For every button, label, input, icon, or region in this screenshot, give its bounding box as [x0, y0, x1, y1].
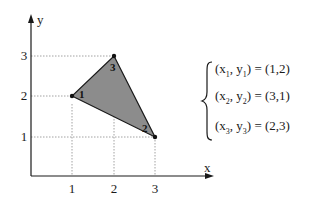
vertex-point-2 [153, 135, 157, 139]
y-tick-2: 2 [21, 88, 28, 103]
eq1-y-sub: 1 [243, 70, 247, 79]
vertex-point-3 [112, 54, 116, 58]
y-tick-3: 3 [21, 48, 28, 63]
curly-brace [202, 62, 212, 140]
y-axis-arrow-icon [28, 14, 34, 23]
eq3-value: (2,3) [265, 118, 290, 133]
y-axis-label: y [37, 12, 44, 27]
equation-2: (x2, y2) = (3,1) [215, 88, 290, 106]
eq3-x-sub: 3 [226, 127, 230, 136]
x-tick-2: 2 [111, 181, 118, 196]
eq1-x-sub: 1 [226, 70, 230, 79]
eq3-y-sub: 3 [243, 127, 247, 136]
eq2-x-sub: 2 [226, 97, 230, 106]
y-tick-1: 1 [21, 129, 28, 144]
equation-1: (x1, y1) = (1,2) [215, 61, 290, 79]
x-axis-label: x [204, 160, 211, 175]
vertex-label-3: 3 [110, 61, 116, 73]
x-tick-3: 3 [152, 181, 159, 196]
vertex-point-1 [70, 94, 74, 98]
eq2-value: (3,1) [265, 88, 290, 103]
vertex-label-1: 1 [79, 88, 85, 100]
x-tick-1: 1 [69, 181, 76, 196]
equation-3: (x3, y3) = (2,3) [215, 118, 290, 136]
vertex-label-2: 2 [142, 122, 148, 134]
eq2-y-sub: 2 [243, 97, 247, 106]
eq1-value: (1,2) [265, 61, 290, 76]
